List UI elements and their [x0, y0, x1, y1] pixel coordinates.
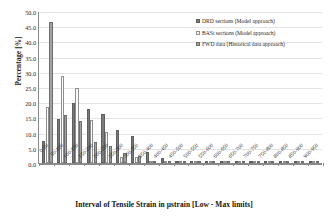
bar-group: [70, 12, 85, 163]
bar-group: [114, 12, 129, 163]
legend-label: DRD sections (Model approach): [202, 18, 275, 24]
x-axis-title: Interval of Tensile Strain in µstrain [L…: [0, 200, 328, 209]
bar-group: [99, 12, 114, 163]
legend-swatch-icon: [196, 19, 200, 23]
bar: [49, 22, 52, 163]
y-axis-tick-labels: 50.045.040.035.030.025.020.015.010.05.00…: [14, 12, 36, 164]
y-axis-tick-label: 25.0: [14, 85, 36, 92]
bar: [316, 161, 319, 163]
y-axis-tick-label: 40.0: [14, 39, 36, 46]
legend-swatch-icon: [196, 42, 200, 46]
y-axis-tick-label: 15.0: [14, 115, 36, 122]
chart-legend: DRD sections (Model approach)BASt sectio…: [196, 18, 285, 47]
bar-group: [158, 12, 173, 163]
y-axis-tick-label: 5.0: [14, 145, 36, 152]
x-axis-tick-mark: [323, 163, 324, 166]
y-axis-tick-label: 35.0: [14, 54, 36, 61]
y-axis-tick-label: 10.0: [14, 130, 36, 137]
legend-item[interactable]: FWD data (Historical data approach): [196, 41, 285, 47]
legend-item[interactable]: BASt sections (Model approach): [196, 30, 285, 36]
x-axis-tick-labels: 0-5050-100100-150150-200200-250250-30030…: [38, 165, 322, 199]
y-axis-tick-label: 20.0: [14, 100, 36, 107]
bar-chart: Percentage [%] 50.045.040.035.030.025.02…: [0, 0, 328, 222]
y-axis-tick-label: 30.0: [14, 69, 36, 76]
bar-group: [55, 12, 70, 163]
bar-group: [292, 12, 307, 163]
y-axis-tick-label: 50.0: [14, 9, 36, 16]
bar-group: [40, 12, 55, 163]
legend-swatch-icon: [196, 31, 200, 35]
bar-group: [84, 12, 99, 163]
bar-group: [129, 12, 144, 163]
bar-group: [306, 12, 321, 163]
bar-group: [144, 12, 159, 163]
legend-label: FWD data (Historical data approach): [202, 41, 285, 47]
legend-label: BASt sections (Model approach): [202, 30, 275, 36]
legend-item[interactable]: DRD sections (Model approach): [196, 18, 285, 24]
bar-group: [173, 12, 188, 163]
y-axis-tick-label: 45.0: [14, 24, 36, 31]
